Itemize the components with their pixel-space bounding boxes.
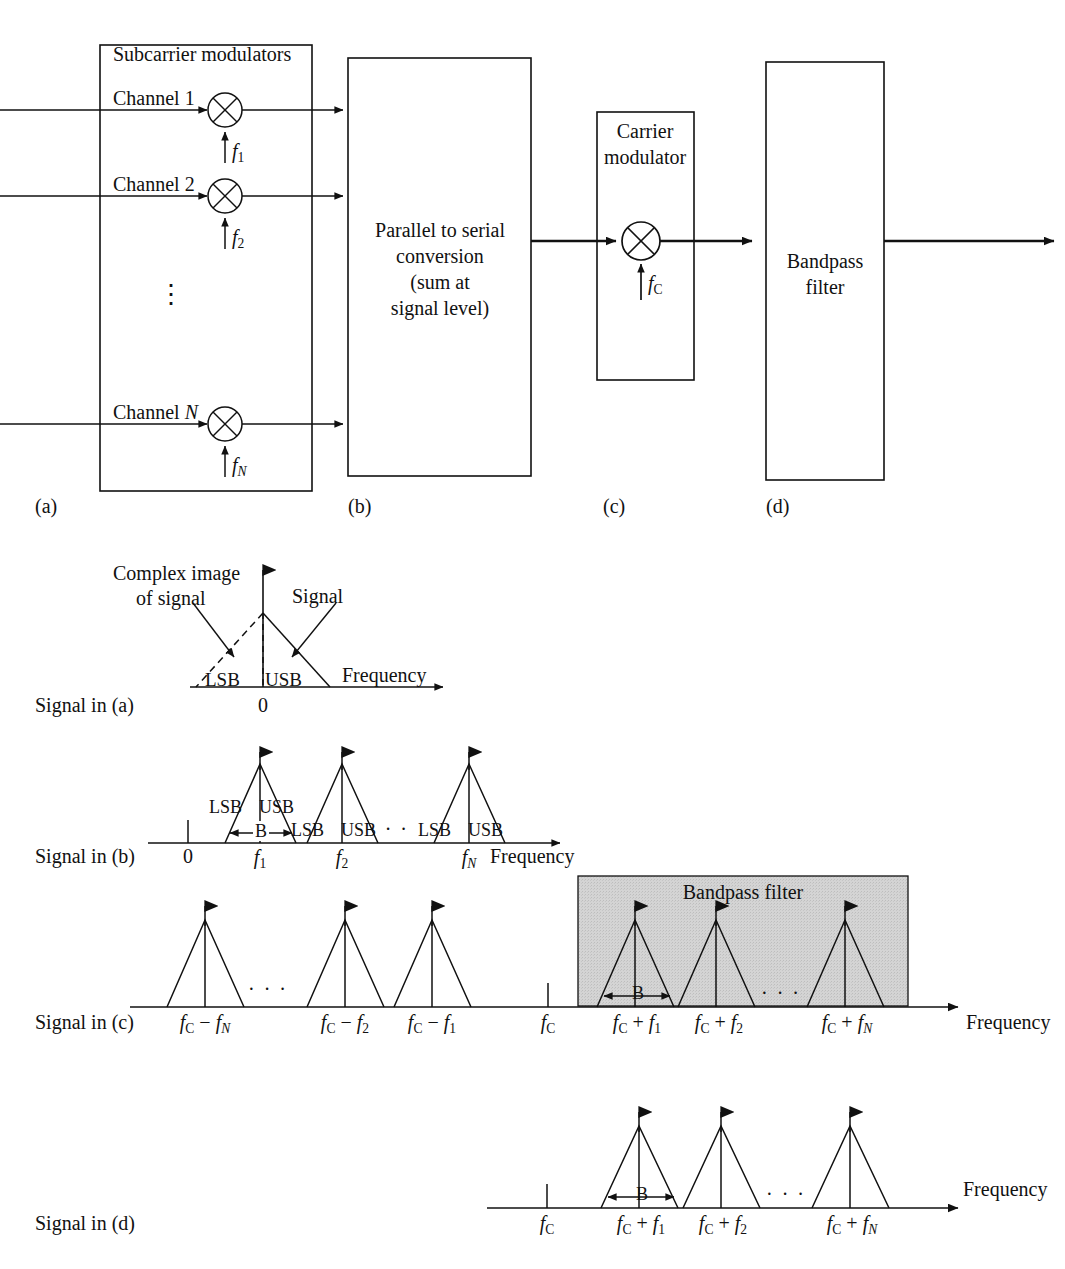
spectrum-c-tick-fc-plus-fn: fC + fN [822,1011,873,1036]
channel-1-label: Channel 1 [113,87,195,109]
spectrum-c-tick-fc-minus-f1: fC − f1 [408,1011,456,1036]
block-c-title-line2: modulator [604,146,686,168]
channel-n-index: N [185,401,198,423]
spectrum-a-origin-tick: 0 [258,694,268,716]
spectrum-b-usb-1: USB [259,797,294,817]
spectrum-c-tick-fc-minus-f2: fC − f2 [321,1011,369,1036]
block-a-title: Subcarrier modulators [113,43,291,65]
block-b-title-line2: conversion [396,245,484,267]
caption-d: (d) [766,495,789,517]
spectrum-b-xlabel: Frequency [490,845,574,867]
subcarrier-osc-2-label: f2 [232,226,244,251]
spectrum-b-ellipsis: · · · [369,818,409,840]
channel-2-label: Channel 2 [113,173,195,195]
spectrum-b-lsb-1: LSB [209,797,242,817]
spectrum-c-row-label: Signal in (c) [35,1011,134,1033]
annotation-complex-image-line2: of signal [136,587,205,609]
spectrum-d-tick-fc-plus-fn: fC + fN [827,1212,878,1237]
block-d-title-line1: Bandpass [787,250,864,272]
block-b-title-line3: (sum at [410,271,469,293]
spectrum-b-origin-tick: 0 [183,845,193,867]
annotation-signal: Signal [292,585,343,607]
spectrum-d-tick-fc-plus-f2: fC + f2 [699,1212,747,1237]
spectrum-d-row-label: Signal in (d) [35,1212,135,1234]
spectrum-b-lsb-n: LSB [418,820,451,840]
spectrum-c-xlabel: Frequency [966,1011,1050,1033]
caption-b: (b) [348,495,371,517]
spectrum-c-tick-fc-plus-f2: fC + f2 [695,1011,743,1036]
spectrum-c-tick-fc: fC [541,1011,556,1036]
spectrum-a-xlabel: Frequency [342,664,426,686]
subcarrier-osc-1-label: f1 [232,140,244,165]
spectrum-c-bandwidth-label: B [632,983,644,1003]
subcarrier-osc-n-label: fN [232,454,247,479]
channel-n-prefix: Channel [113,401,185,423]
spectrum-d-bandwidth-label: B [636,1184,648,1204]
block-b-title-line4: signal level) [391,297,489,319]
spectrum-b-bandwidth-label: B [253,821,269,841]
spectrum-d-tick-fc-plus-f1: fC + f1 [617,1212,665,1237]
spectrum-b-tick-f1: f1 [254,846,266,871]
spectrum-d-tick-fc: fC [540,1212,555,1237]
spectrum-b-tick-f2: f2 [336,846,348,871]
figure-canvas: Subcarrier modulators Channel 1 Channel … [0,0,1065,1269]
spectrum-d-ellipsis: · · · [766,1183,806,1205]
caption-c: (c) [603,495,625,517]
spectrum-b-row-label: Signal in (b) [35,845,135,867]
bandpass-filter-overlay-label: Bandpass filter [683,881,804,903]
spectrum-c-tick-fc-plus-f1: fC + f1 [613,1011,661,1036]
spectrum-d-xlabel: Frequency [963,1178,1047,1200]
annotation-arrows-a [193,603,336,657]
spectrum-c-tick-fc-minus-fn: fC − fN [180,1011,231,1036]
caption-a: (a) [35,495,57,517]
spectrum-c-ellipsis-left: · · · [248,978,288,1000]
block-c-title-line1: Carrier [617,120,674,142]
spectrum-a-lsb-label: LSB [205,669,240,690]
block-b-title-line1: Parallel to serial [375,219,505,241]
vertical-ellipsis: ⋮ [158,283,184,306]
spectrum-a-usb-label: USB [265,669,302,690]
annotation-complex-image-line1: Complex image [113,562,240,584]
spectrum-b-lsb-2: LSB [291,820,324,840]
spectrum-c-ellipsis-right: · · · [761,982,801,1004]
spectrum-d [487,1112,958,1208]
channel-n-label: Channel N [113,401,198,423]
spectrum-b-usb-n: USB [468,820,503,840]
spectrum-a-row-label: Signal in (a) [35,694,134,716]
block-d-title-line2: filter [806,276,845,298]
carrier-osc-label: fC [648,272,663,297]
spectrum-b-tick-fn: fN [462,846,477,871]
